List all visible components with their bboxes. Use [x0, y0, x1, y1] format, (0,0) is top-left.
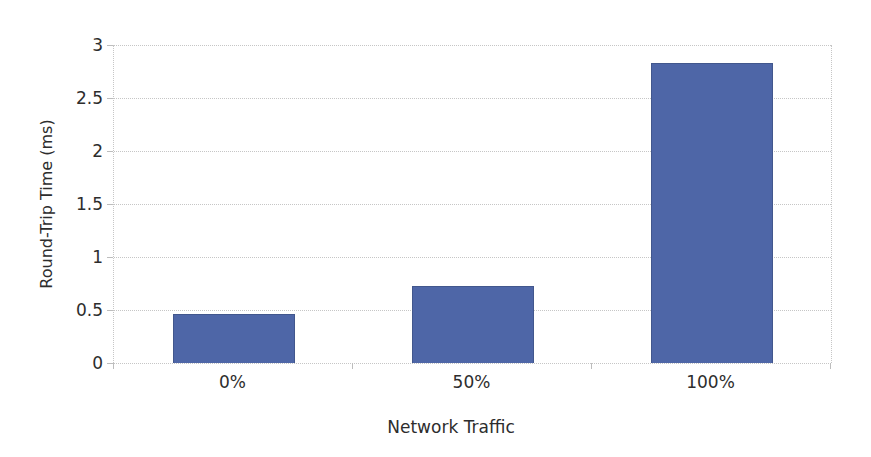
y-tick-label: 2.5 — [0, 87, 103, 109]
x-tick-label: 50% — [412, 372, 532, 392]
x-tick-mark — [830, 363, 831, 369]
round-trip-time-bar-chart: Round-Trip Time (ms) 00.511.522.53 0%50%… — [0, 0, 871, 457]
y-tick-label: 1.5 — [0, 193, 103, 215]
plot-area — [113, 45, 832, 363]
y-tick-label: 2 — [0, 140, 103, 162]
bar-0% — [173, 314, 295, 363]
gridline — [114, 363, 831, 364]
y-tick-mark — [107, 45, 113, 46]
x-tick-mark — [591, 363, 592, 369]
y-tick-label: 1 — [0, 246, 103, 268]
y-tick-mark — [107, 151, 113, 152]
gridline — [114, 45, 831, 46]
y-tick-label: 0 — [0, 352, 103, 374]
y-tick-mark — [107, 310, 113, 311]
y-tick-mark — [107, 204, 113, 205]
bar-50% — [412, 286, 534, 363]
x-tick-label: 0% — [173, 372, 293, 392]
x-tick-label: 100% — [651, 372, 771, 392]
x-tick-mark — [113, 363, 114, 369]
y-tick-label: 0.5 — [0, 299, 103, 321]
x-axis-title: Network Traffic — [301, 417, 601, 437]
y-tick-mark — [107, 257, 113, 258]
bar-100% — [651, 63, 773, 363]
y-tick-label: 3 — [0, 34, 103, 56]
x-tick-mark — [352, 363, 353, 369]
y-tick-mark — [107, 98, 113, 99]
